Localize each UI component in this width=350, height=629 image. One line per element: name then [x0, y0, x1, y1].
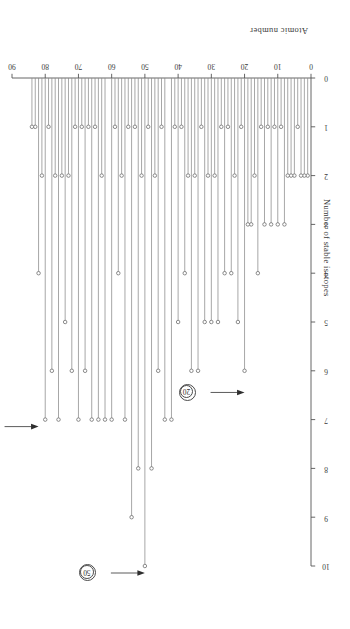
data-point-marker: [37, 271, 41, 275]
data-point-marker: [53, 174, 57, 178]
data-point-marker: [160, 125, 164, 129]
figure-rotator: Atomic number Number of stable isotopes …: [0, 0, 350, 629]
annotation-outer-circle: 50: [79, 565, 96, 582]
data-point-marker: [173, 125, 177, 129]
data-point-marker: [180, 125, 184, 129]
data-point-marker: [77, 418, 81, 422]
data-point-marker: [186, 174, 190, 178]
data-point-marker: [80, 125, 84, 129]
data-point-marker: [286, 174, 290, 178]
data-point-marker: [216, 320, 220, 324]
x-tick-label: 20: [234, 63, 256, 72]
data-point-marker: [259, 125, 263, 129]
data-point-marker: [83, 369, 87, 373]
magic-number-20: 20: [179, 384, 196, 401]
data-point-marker: [279, 125, 283, 129]
axes-group: [12, 74, 315, 566]
data-point-marker: [136, 467, 140, 471]
data-point-marker: [223, 271, 227, 275]
data-point-marker: [143, 564, 147, 568]
data-point-marker: [183, 271, 187, 275]
data-point-marker: [220, 125, 224, 129]
data-point-marker: [93, 125, 97, 129]
data-point-marker: [90, 418, 94, 422]
data-point-marker: [253, 174, 257, 178]
data-point-marker: [176, 320, 180, 324]
x-tick-label: 0: [300, 63, 322, 72]
magic-number-50: 50: [79, 565, 96, 582]
data-point-marker: [70, 369, 74, 373]
data-point-marker: [200, 125, 204, 129]
y-tick-label: 2: [315, 172, 337, 181]
y-axis-title: Number of stable isotopes: [322, 199, 332, 297]
x-tick-label: 80: [34, 63, 56, 72]
y-tick-label: 5: [315, 319, 337, 328]
data-point-marker: [296, 125, 300, 129]
data-point-marker: [67, 174, 71, 178]
isotope-stem-chart: [0, 0, 350, 629]
annotation-label: 20: [180, 385, 194, 399]
data-point-marker: [63, 320, 67, 324]
y-tick-label: 8: [315, 465, 337, 474]
x-tick-label: 40: [167, 63, 189, 72]
y-tick-label: 10: [315, 563, 337, 572]
data-point-marker: [30, 125, 34, 129]
x-axis-title: Atomic number: [250, 26, 308, 36]
data-point-marker: [243, 369, 247, 373]
data-point-marker: [203, 320, 207, 324]
data-point-marker: [230, 271, 234, 275]
data-point-marker: [97, 418, 101, 422]
y-tick-label: 0: [315, 75, 337, 84]
data-point-marker: [170, 418, 174, 422]
y-tick-label: 7: [315, 416, 337, 425]
data-point-marker: [50, 369, 54, 373]
data-point-marker: [246, 223, 250, 227]
x-tick-label: 50: [134, 63, 156, 72]
data-point-marker: [299, 174, 303, 178]
data-point-marker: [40, 174, 44, 178]
annotation-outer-circle: 20: [179, 384, 196, 401]
x-tick-label: 70: [67, 63, 89, 72]
data-point-marker: [146, 125, 150, 129]
data-point-marker: [163, 418, 167, 422]
data-point-marker: [263, 223, 267, 227]
data-point-marker: [273, 125, 277, 129]
data-point-marker: [156, 369, 160, 373]
annotation-label: 50: [80, 565, 94, 579]
data-point-marker: [120, 174, 124, 178]
data-point-marker: [190, 369, 194, 373]
data-point-marker: [193, 174, 197, 178]
data-point-marker: [269, 223, 273, 227]
data-point-marker: [140, 174, 144, 178]
data-point-marker: [103, 418, 107, 422]
data-point-marker: [153, 174, 157, 178]
data-point-marker: [256, 271, 260, 275]
data-point-marker: [100, 174, 104, 178]
stems-group: [30, 78, 309, 568]
data-point-marker: [110, 418, 114, 422]
data-point-marker: [127, 125, 131, 129]
data-point-marker: [196, 369, 200, 373]
data-point-marker: [266, 125, 270, 129]
data-point-marker: [226, 125, 230, 129]
x-tick-label: 90: [1, 63, 23, 72]
data-point-marker: [213, 174, 217, 178]
data-point-marker: [43, 418, 47, 422]
data-point-marker: [236, 320, 240, 324]
y-tick-label: 6: [315, 367, 337, 376]
data-point-marker: [123, 418, 127, 422]
data-point-marker: [60, 174, 64, 178]
x-tick-label: 60: [101, 63, 123, 72]
data-point-marker: [113, 125, 117, 129]
y-tick-label: 3: [315, 221, 337, 230]
data-point-marker: [283, 223, 287, 227]
data-point-marker: [133, 125, 137, 129]
data-point-marker: [130, 515, 134, 519]
data-point-marker: [206, 174, 210, 178]
y-tick-label: 9: [315, 514, 337, 523]
x-tick-label: 30: [200, 63, 222, 72]
y-tick-label: 4: [315, 270, 337, 279]
data-point-marker: [47, 125, 51, 129]
data-point-marker: [239, 125, 243, 129]
data-point-marker: [87, 125, 91, 129]
